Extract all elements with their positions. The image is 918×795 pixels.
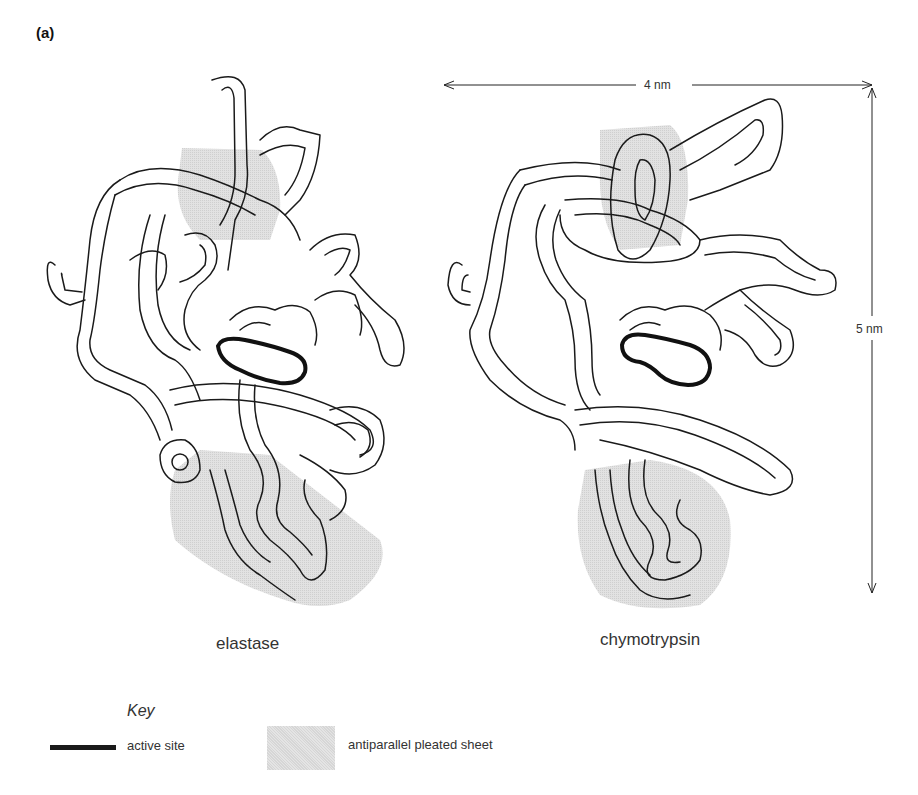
active-site-label: active site (127, 738, 185, 753)
pleated-sheet-label: antiparallel pleated sheet (348, 737, 493, 752)
pleated-sheet-swatch (267, 726, 335, 770)
elastase-sheet-top (178, 148, 281, 240)
elastase-caption: elastase (216, 634, 279, 654)
chymotrypsin-caption: chymotrypsin (600, 630, 700, 650)
chymotrypsin-active-site (622, 334, 710, 385)
elastase-active-site (218, 339, 305, 383)
chymotrypsin-sheet-bottom (578, 460, 731, 608)
active-site-swatch (50, 745, 116, 750)
panel-label: (a) (36, 24, 54, 41)
chymotrypsin-structure (448, 99, 836, 608)
width-dimension-label: 4 nm (640, 78, 675, 92)
elastase-structure (47, 77, 404, 606)
height-dimension-label: 5 nm (856, 320, 883, 338)
key-title: Key (127, 702, 155, 720)
protein-diagram (0, 0, 918, 795)
